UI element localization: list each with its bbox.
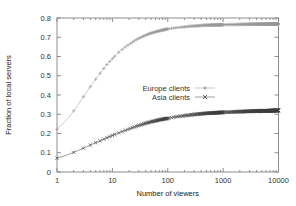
legend-label: Europe clients — [142, 84, 190, 93]
x-axis-title: Number of viewers — [136, 189, 199, 198]
chart-background — [0, 0, 296, 206]
x-tick-label: 1000 — [215, 176, 232, 185]
y-tick-label: 0.4 — [41, 91, 51, 100]
y-tick-label: 0.6 — [41, 52, 51, 61]
legend-label: Asia clients — [152, 93, 190, 102]
x-tick-label: 10000 — [268, 176, 289, 185]
x-tick-label: 100 — [161, 176, 174, 185]
x-tick-label: 10 — [108, 176, 116, 185]
y-axis-tick-labels: 00.10.20.30.40.50.60.70.8 — [41, 14, 51, 177]
y-tick-label: 0.7 — [41, 33, 51, 42]
y-tick-label: 0.5 — [41, 71, 51, 80]
y-tick-label: 0.3 — [41, 110, 51, 119]
y-axis-title: Fraction of local servers — [4, 55, 13, 135]
y-tick-label: 0.8 — [41, 14, 51, 23]
chart-figure: 00.10.20.30.40.50.60.70.8 11010010001000… — [0, 0, 296, 206]
y-tick-label: 0.2 — [41, 129, 51, 138]
y-tick-label: 0.1 — [41, 148, 51, 157]
chart-canvas: 00.10.20.30.40.50.60.70.8 11010010001000… — [0, 0, 296, 206]
x-tick-label: 1 — [55, 176, 59, 185]
y-tick-label: 0 — [47, 168, 51, 177]
